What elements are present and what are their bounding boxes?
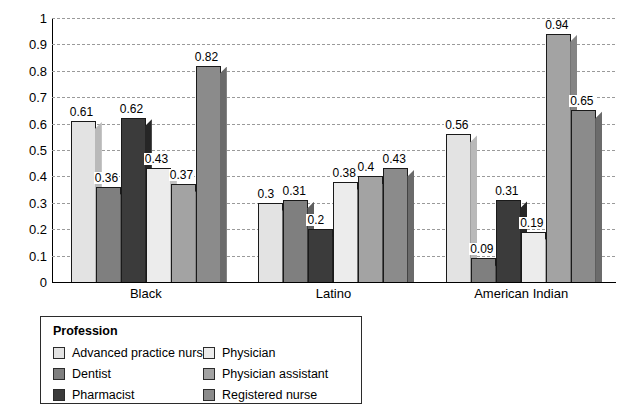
- y-axis-tick-label: 0.5: [5, 144, 47, 157]
- bar-chart: 10.90.80.70.60.50.40.30.20.10 0.610.360.…: [0, 0, 625, 308]
- bar-value-label: 0.4: [356, 161, 375, 173]
- bar: [446, 134, 471, 282]
- x-axis-line: [52, 282, 616, 283]
- legend-swatch-icon: [53, 368, 65, 380]
- bar-value-label: 0.43: [144, 153, 169, 165]
- y-axis-tick-label: 1: [5, 12, 47, 25]
- y-axis-tick-label: 0.6: [5, 118, 47, 131]
- legend-swatch-icon: [203, 347, 215, 359]
- y-axis-tick-label: 0.3: [5, 197, 47, 210]
- bar: [358, 176, 383, 282]
- x-axis-category-label: Latino: [240, 287, 428, 301]
- bar-value-label: 0.31: [281, 185, 306, 197]
- y-axis-tick-label: 0.1: [5, 250, 47, 263]
- legend-swatch-icon: [53, 347, 65, 359]
- y-axis-tick-label: 0.2: [5, 223, 47, 236]
- bar: [571, 110, 596, 282]
- bar-value-label: 0.82: [194, 51, 219, 63]
- bar-3d-side: [595, 111, 602, 282]
- bar: [383, 168, 408, 282]
- legend-item-label: Dentist: [72, 367, 111, 381]
- bar-value-label: 0.94: [544, 19, 569, 31]
- y-axis: 10.90.80.70.60.50.40.30.20.10: [0, 0, 47, 308]
- bar: [96, 187, 121, 282]
- bar-group: 0.610.360.620.430.370.82: [52, 18, 240, 282]
- bar-group: 0.560.090.310.190.940.65: [427, 18, 615, 282]
- bar: [308, 229, 333, 282]
- legend: Profession Advanced practice nurseDentis…: [40, 316, 362, 404]
- legend-item-label: Registered nurse: [222, 388, 317, 402]
- bar-value-label: 0.62: [119, 103, 144, 115]
- bar-value-label: 0.37: [169, 169, 194, 181]
- legend-swatch-icon: [53, 389, 65, 401]
- bar: [196, 66, 221, 282]
- legend-swatch-icon: [203, 368, 215, 380]
- bar-value-label: 0.36: [94, 172, 119, 184]
- bar-value-label: 0.38: [331, 167, 356, 179]
- legend-item-label: Advanced practice nurse: [72, 346, 210, 360]
- y-axis-tick-label: 0.9: [5, 38, 47, 51]
- bar-value-label: 0.56: [444, 119, 469, 131]
- bar-value-label: 0.65: [569, 95, 594, 107]
- bar-3d-side: [407, 169, 414, 282]
- bar-group: 0.30.310.20.380.40.43: [240, 18, 428, 282]
- bar-value-label: 0.19: [519, 217, 544, 229]
- bar-3d-side: [220, 67, 227, 282]
- x-axis-category-label: Black: [52, 287, 240, 301]
- bar: [283, 200, 308, 282]
- bar-value-label: 0.3: [256, 188, 275, 200]
- bar: [496, 200, 521, 282]
- bar: [333, 182, 358, 282]
- bar: [521, 232, 546, 282]
- legend-item-label: Physician assistant: [222, 367, 328, 381]
- legend-item-label: Physician: [222, 346, 276, 360]
- legend-swatch-icon: [203, 389, 215, 401]
- bar-value-label: 0.31: [494, 185, 519, 197]
- bar-value-label: 0.2: [306, 214, 325, 226]
- y-axis-tick-label: 0: [5, 276, 47, 289]
- bar: [121, 118, 146, 282]
- bar: [471, 258, 496, 282]
- bar: [546, 34, 571, 282]
- x-axis-category-label: American Indian: [427, 287, 615, 301]
- legend-item-label: Pharmacist: [72, 388, 135, 402]
- y-axis-tick-label: 0.8: [5, 65, 47, 78]
- bar: [171, 184, 196, 282]
- bar: [146, 168, 171, 282]
- bar: [258, 203, 283, 282]
- bar-value-label: 0.43: [381, 153, 406, 165]
- bar-value-label: 0.09: [469, 243, 494, 255]
- y-axis-tick-label: 0.4: [5, 170, 47, 183]
- bar: [71, 121, 96, 282]
- plot-area: 0.610.360.620.430.370.820.30.310.20.380.…: [52, 18, 615, 282]
- y-axis-tick-label: 0.7: [5, 91, 47, 104]
- bar-value-label: 0.61: [69, 106, 94, 118]
- legend-title: Profession: [53, 325, 118, 338]
